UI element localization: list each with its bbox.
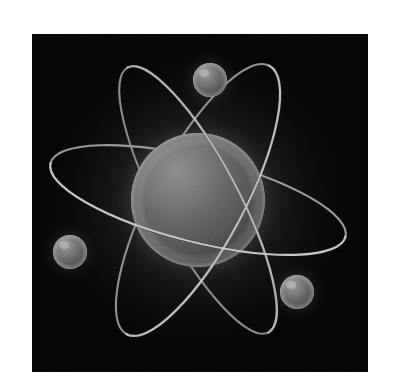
atom-illustration-panel	[32, 34, 368, 372]
image-canvas: Atom model illustration	[0, 0, 395, 389]
atom-scene	[32, 34, 368, 372]
image-grain	[32, 34, 368, 372]
